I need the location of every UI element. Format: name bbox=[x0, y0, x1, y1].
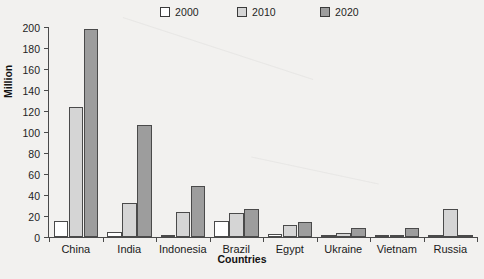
y-axis-tick-label: 60 bbox=[28, 169, 40, 181]
y-axis-tick-label: 160 bbox=[22, 64, 40, 76]
y-axis-tick-label: 40 bbox=[28, 190, 40, 202]
bar-egypt-2010[interactable] bbox=[283, 225, 298, 237]
bar-india-2000[interactable] bbox=[107, 232, 122, 237]
y-axis-tick-label: 180 bbox=[22, 43, 40, 55]
bar-ukraine-2020[interactable] bbox=[351, 228, 366, 237]
y-axis-tick-label: 0 bbox=[34, 232, 40, 244]
y-axis-tick: 200 bbox=[44, 27, 49, 28]
bar-brazil-2010[interactable] bbox=[229, 213, 244, 237]
y-axis-title: Million bbox=[2, 65, 14, 98]
y-axis-tick-label: 140 bbox=[22, 85, 40, 97]
x-axis-tick bbox=[424, 237, 425, 242]
bar-india-2020[interactable] bbox=[137, 125, 152, 237]
bar-russia-2010[interactable] bbox=[443, 209, 458, 237]
bar-ukraine-2000[interactable] bbox=[321, 235, 336, 237]
bar-china-2010[interactable] bbox=[69, 107, 84, 237]
legend-swatch-icon bbox=[320, 7, 330, 17]
bar-russia-2000[interactable] bbox=[428, 235, 443, 237]
x-axis-tick bbox=[210, 237, 211, 242]
y-axis-tick-label: 200 bbox=[22, 22, 40, 34]
legend-swatch-icon bbox=[237, 7, 247, 17]
bar-brazil-2000[interactable] bbox=[214, 221, 229, 237]
bar-egypt-2000[interactable] bbox=[268, 234, 283, 237]
bar-vietnam-2010[interactable] bbox=[390, 235, 405, 237]
y-axis-tick-label: 120 bbox=[22, 106, 40, 118]
x-axis-tick bbox=[317, 237, 318, 242]
y-axis-tick-label: 20 bbox=[28, 211, 40, 223]
x-axis-tick bbox=[263, 237, 264, 242]
y-axis-tick: 160 bbox=[44, 69, 49, 70]
bar-indonesia-2000[interactable] bbox=[161, 235, 176, 237]
bar-vietnam-2020[interactable] bbox=[405, 228, 420, 237]
legend-entry-2000: 2000 bbox=[160, 4, 199, 20]
legend-label: 2020 bbox=[335, 7, 359, 18]
legend-entry-2010: 2010 bbox=[237, 4, 276, 20]
x-axis-tick bbox=[156, 237, 157, 242]
chart-legend: 2000 2010 2020 bbox=[0, 4, 484, 22]
y-axis-tick: 80 bbox=[44, 153, 49, 154]
y-axis-tick-label: 80 bbox=[28, 148, 40, 160]
x-axis-tick bbox=[477, 237, 478, 242]
x-axis-tick bbox=[370, 237, 371, 242]
x-axis-tick bbox=[103, 237, 104, 242]
bar-indonesia-2020[interactable] bbox=[191, 186, 206, 237]
y-axis-tick: 100 bbox=[44, 132, 49, 133]
legend-label: 2010 bbox=[252, 7, 276, 18]
bar-indonesia-2010[interactable] bbox=[176, 212, 191, 237]
bar-china-2020[interactable] bbox=[84, 29, 99, 237]
x-axis-tick bbox=[49, 237, 50, 242]
bar-chart-figure: 2000 2010 2020 Million 02040608010012014… bbox=[0, 0, 484, 279]
y-axis-tick: 140 bbox=[44, 90, 49, 91]
bar-vietnam-2000[interactable] bbox=[375, 235, 390, 237]
plot-area: 020406080100120140160180200ChinaIndiaInd… bbox=[48, 27, 477, 238]
bar-ukraine-2010[interactable] bbox=[336, 233, 351, 237]
bar-brazil-2020[interactable] bbox=[244, 209, 259, 237]
y-axis-tick: 60 bbox=[44, 174, 49, 175]
bar-egypt-2020[interactable] bbox=[298, 222, 313, 237]
bar-india-2010[interactable] bbox=[122, 203, 137, 237]
bar-russia-2020[interactable] bbox=[458, 235, 473, 237]
y-axis-tick: 40 bbox=[44, 195, 49, 196]
x-axis-title: Countries bbox=[0, 253, 484, 265]
y-axis-tick: 20 bbox=[44, 216, 49, 217]
legend-entry-2020: 2020 bbox=[320, 4, 359, 20]
y-axis-tick: 180 bbox=[44, 48, 49, 49]
legend-label: 2000 bbox=[175, 7, 199, 18]
legend-swatch-icon bbox=[160, 7, 170, 17]
y-axis-tick-label: 100 bbox=[22, 127, 40, 139]
bar-china-2000[interactable] bbox=[54, 221, 69, 237]
y-axis-tick: 120 bbox=[44, 111, 49, 112]
